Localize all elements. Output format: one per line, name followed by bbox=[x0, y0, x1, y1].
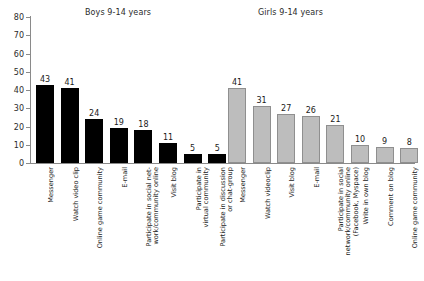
bar-girls-6 bbox=[376, 147, 394, 163]
bar-girls-7 bbox=[400, 148, 418, 163]
y-tick-mark bbox=[26, 54, 30, 55]
bar-boys-0 bbox=[36, 85, 54, 163]
category-label-boys-3: E-mail bbox=[122, 167, 129, 188]
bar-girls-4 bbox=[326, 125, 344, 163]
bar-value-label: 24 bbox=[79, 109, 109, 118]
y-tick-mark bbox=[26, 35, 30, 36]
bar-boys-4 bbox=[134, 130, 152, 163]
bar-girls-3 bbox=[302, 116, 320, 163]
category-label-boys-1: Watch video clip bbox=[73, 167, 80, 221]
y-axis-label: 10 bbox=[0, 141, 24, 150]
category-label-girls-1: Watch videoclip bbox=[265, 167, 272, 219]
category-label-boys-7: Participate in discussionor chat-group bbox=[220, 167, 235, 247]
bar-value-label: 26 bbox=[296, 106, 326, 115]
category-label-girls-7: Online game community bbox=[412, 167, 419, 248]
bar-girls-2 bbox=[277, 114, 295, 163]
bar-girls-1 bbox=[253, 106, 271, 163]
category-label-girls-6: Comment on blog bbox=[388, 167, 395, 226]
bar-value-label: 18 bbox=[128, 120, 158, 129]
y-tick-mark bbox=[26, 72, 30, 73]
plot-area: 01020304050607080 4341241918115541312726… bbox=[0, 0, 424, 281]
category-label-girls-0: Messenger bbox=[240, 167, 247, 203]
y-axis-label: 50 bbox=[0, 68, 24, 77]
category-label-girls-2: Visit blog bbox=[289, 167, 296, 197]
category-label-boys-2: Online game community bbox=[97, 167, 104, 248]
bar-boys-1 bbox=[61, 88, 79, 163]
bar-value-label: 11 bbox=[153, 133, 183, 142]
bar-girls-0 bbox=[228, 88, 246, 163]
y-axis-label: 80 bbox=[0, 13, 24, 22]
category-label-girls-5: Write in own blog bbox=[363, 167, 370, 225]
bar-chart: Boys 9-14 years Girls 9-14 years 0102030… bbox=[0, 0, 424, 281]
bar-boys-6 bbox=[184, 154, 202, 163]
y-tick-mark bbox=[26, 145, 30, 146]
bar-value-label: 41 bbox=[55, 78, 85, 87]
bar-girls-5 bbox=[351, 145, 369, 163]
category-label-girls-3: E-mail bbox=[314, 167, 321, 188]
category-label-boys-0: Messenger bbox=[48, 167, 55, 203]
y-axis-label: 20 bbox=[0, 123, 24, 132]
bar-value-label: 8 bbox=[394, 138, 424, 147]
bar-boys-5 bbox=[159, 143, 177, 163]
x-axis-line bbox=[30, 163, 415, 164]
y-axis-label: 60 bbox=[0, 50, 24, 59]
bar-value-label: 21 bbox=[320, 115, 350, 124]
y-axis-label: 0 bbox=[0, 159, 24, 168]
bar-boys-3 bbox=[110, 128, 128, 163]
y-tick-mark bbox=[26, 127, 30, 128]
y-tick-mark bbox=[26, 108, 30, 109]
y-tick-mark bbox=[26, 163, 30, 164]
category-label-boys-4: Participate in social net-work/community… bbox=[146, 167, 161, 246]
y-axis-label: 70 bbox=[0, 31, 24, 40]
category-label-boys-6: Participate invirtual community bbox=[196, 167, 211, 227]
bar-boys-7 bbox=[208, 154, 226, 163]
y-axis-label: 40 bbox=[0, 86, 24, 95]
bar-boys-2 bbox=[85, 119, 103, 163]
category-label-boys-5: Visit blog bbox=[171, 167, 178, 197]
y-axis-label: 30 bbox=[0, 104, 24, 113]
y-axis-line bbox=[30, 16, 31, 164]
y-tick-mark bbox=[26, 17, 30, 18]
bar-value-label: 41 bbox=[222, 78, 252, 87]
y-tick-mark bbox=[26, 90, 30, 91]
category-label-girls-4: Participate in socialnetwork/community o… bbox=[338, 167, 360, 255]
